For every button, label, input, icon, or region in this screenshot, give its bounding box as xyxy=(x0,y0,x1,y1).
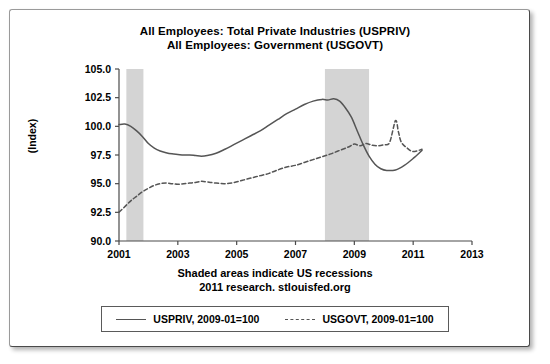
caption-line-1: Shaded areas indicate US recessions xyxy=(40,266,510,280)
tick-labels-group: 90.092.595.097.5100.0102.5105.0200120032… xyxy=(85,63,484,260)
legend-line-solid-icon xyxy=(116,319,146,320)
recession-shading-group xyxy=(126,69,369,241)
legend-label-usgovt: USGOVT, 2009-01=100 xyxy=(322,313,433,325)
y-tick-label: 95.0 xyxy=(91,177,112,189)
x-tick-label: 2005 xyxy=(225,248,249,260)
screenshot-root: All Employees: Total Private Industries … xyxy=(0,0,550,364)
x-tick-label: 2011 xyxy=(402,248,425,260)
series-line-uspriv xyxy=(119,99,422,171)
x-tick-label: 2007 xyxy=(284,248,308,260)
y-tick-label: 90.0 xyxy=(91,235,112,247)
data-series-group xyxy=(119,99,422,213)
legend-line-dashed-icon xyxy=(285,319,315,320)
axis-lines-group xyxy=(119,69,472,241)
y-tick-label: 97.5 xyxy=(91,149,112,161)
x-tick-label: 2009 xyxy=(343,248,367,260)
legend-label-uspriv: USPRIV, 2009-01=100 xyxy=(153,313,259,325)
chart-caption: Shaded areas indicate US recessions 2011… xyxy=(40,266,510,294)
tick-marks-group xyxy=(115,69,472,245)
y-tick-label: 100.0 xyxy=(85,120,111,132)
chart-figure: All Employees: Total Private Industries … xyxy=(0,0,550,364)
x-tick-label: 2013 xyxy=(460,248,484,260)
y-tick-label: 105.0 xyxy=(85,63,111,75)
x-tick-label: 2003 xyxy=(166,248,190,260)
y-tick-label: 102.5 xyxy=(85,91,111,103)
x-tick-label: 2001 xyxy=(107,248,131,260)
recession-band xyxy=(126,69,143,241)
chart-legend: USPRIV, 2009-01=100 USGOVT, 2009-01=100 xyxy=(101,306,449,332)
recession-band xyxy=(325,69,369,241)
caption-line-2: 2011 research. stlouisfed.org xyxy=(40,280,510,294)
legend-entry-usgovt: USGOVT, 2009-01=100 xyxy=(285,313,433,325)
y-tick-label: 92.5 xyxy=(91,206,112,218)
legend-entry-uspriv: USPRIV, 2009-01=100 xyxy=(116,313,259,325)
